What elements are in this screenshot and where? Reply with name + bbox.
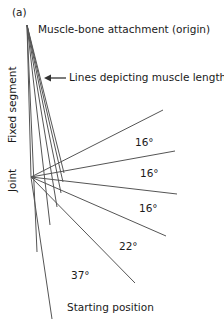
fixed-segment-label: Fixed segment [7, 66, 18, 143]
angle-label-2: 16° [140, 168, 159, 179]
moving-segment-lines [31, 110, 177, 319]
muscle-line-3 [27, 25, 61, 193]
angle-label-5: 37° [71, 270, 90, 281]
joint-angle-diagram [0, 0, 224, 329]
panel-label: (a) [12, 7, 27, 18]
angle-label-3: 16° [139, 203, 158, 214]
muscle-length-lines [27, 25, 64, 252]
starting-position-label: Starting position [67, 302, 154, 313]
joint-label: Joint [7, 169, 18, 192]
angle-label-1: 16° [135, 137, 154, 148]
muscle-lines-label: Lines depicting muscle lengths [69, 72, 224, 83]
origin-label: Muscle-bone attachment (origin) [38, 24, 210, 35]
arrow-left-icon [44, 75, 66, 82]
angle-label-4: 22° [119, 241, 138, 252]
muscle-line-5 [27, 25, 50, 225]
